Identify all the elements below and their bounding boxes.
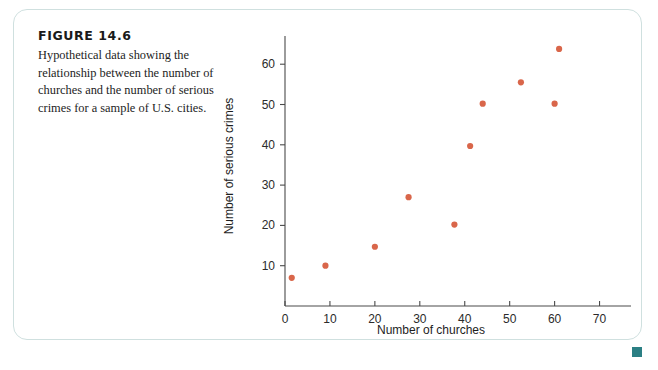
x-tick-label: 10 xyxy=(323,312,337,326)
data-point xyxy=(322,263,328,269)
x-tick-label: 50 xyxy=(503,312,517,326)
data-point xyxy=(372,244,378,250)
figure-number-label: FIGURE 14.6 xyxy=(38,28,216,43)
y-tick-label: 10 xyxy=(262,259,276,273)
data-point xyxy=(405,194,411,200)
data-point xyxy=(451,221,457,227)
figure-card: FIGURE 14.6 Hypothetical data showing th… xyxy=(13,9,642,340)
scatter-plot: 102030405060 010203040506070 Number of c… xyxy=(219,16,639,334)
corner-square-marker xyxy=(632,347,642,357)
y-tick-label: 30 xyxy=(262,178,276,192)
y-axis: 102030405060 xyxy=(262,36,285,306)
data-point xyxy=(467,143,473,149)
x-tick-label: 70 xyxy=(593,312,607,326)
data-point xyxy=(480,101,486,107)
figure-caption-block: FIGURE 14.6 Hypothetical data showing th… xyxy=(38,28,216,117)
data-point xyxy=(556,46,562,52)
data-points-group xyxy=(289,46,563,281)
x-tick-label: 60 xyxy=(548,312,562,326)
y-tick-label: 60 xyxy=(262,57,276,71)
y-tick-label: 40 xyxy=(262,138,276,152)
plot-svg: 102030405060 010203040506070 Number of c… xyxy=(219,16,639,334)
y-axis-title: Number of serious crimes xyxy=(222,98,236,235)
x-tick-label: 0 xyxy=(282,312,289,326)
figure-caption-text: Hypothetical data showing the relationsh… xyxy=(38,47,216,117)
x-axis-title: Number of churches xyxy=(377,323,485,334)
data-point xyxy=(518,79,524,85)
y-tick-label: 20 xyxy=(262,218,276,232)
y-tick-label: 50 xyxy=(262,98,276,112)
data-point xyxy=(289,275,295,281)
data-point xyxy=(552,101,558,107)
